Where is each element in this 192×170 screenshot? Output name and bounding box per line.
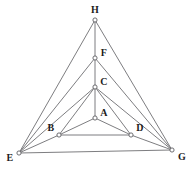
vertex-g[interactable]	[170, 148, 174, 152]
edge-c-e	[19, 87, 95, 153]
vertex-h[interactable]	[93, 18, 97, 22]
vertex-label-c: C	[100, 77, 107, 87]
vertex-label-e: E	[7, 153, 14, 163]
vertex-e[interactable]	[17, 151, 21, 155]
vertex-d[interactable]	[129, 133, 133, 137]
vertex-label-a: A	[100, 108, 107, 118]
edge-e-h	[19, 20, 95, 153]
vertex-b[interactable]	[57, 133, 61, 137]
vertex-label-b: B	[48, 123, 55, 133]
graph-diagram: ABCDEFGH	[0, 0, 192, 170]
edge-b-c	[59, 87, 95, 135]
vertex-label-f: F	[101, 48, 107, 58]
vertex-c[interactable]	[93, 85, 97, 89]
edge-c-g	[95, 87, 172, 150]
edge-b-e	[19, 135, 59, 153]
edge-e-f	[19, 58, 95, 153]
edge-a-b	[59, 118, 95, 135]
vertex-label-h: H	[91, 5, 99, 15]
vertex-label-g: G	[178, 152, 186, 162]
vertex-f[interactable]	[93, 56, 97, 60]
vertex-a[interactable]	[93, 116, 97, 120]
edge-e-g	[19, 150, 172, 153]
graph-canvas	[0, 0, 192, 170]
edge-a-d	[95, 118, 131, 135]
vertex-label-d: D	[136, 123, 143, 133]
